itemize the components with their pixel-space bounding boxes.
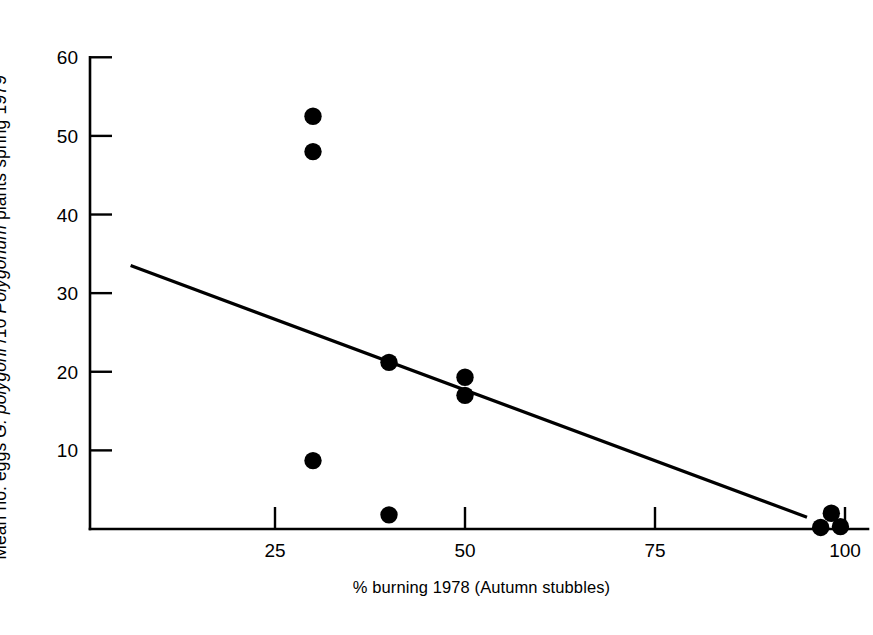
- data-point: [812, 519, 829, 536]
- y-tick-label: 60: [57, 47, 78, 68]
- x-tick-label: 75: [644, 540, 665, 561]
- data-points: [304, 108, 849, 537]
- figure-scatter-plot: Mean no. eggs G. polygoni /10 Polygonum …: [0, 0, 873, 635]
- y-tick-label: 40: [57, 205, 78, 226]
- data-point: [304, 452, 321, 469]
- data-point: [832, 518, 849, 535]
- data-point: [456, 369, 473, 386]
- x-tick-label: 100: [829, 540, 861, 561]
- x-tick-label: 25: [264, 540, 285, 561]
- plot-area: 102030405060255075100: [0, 0, 873, 635]
- data-point: [456, 387, 473, 404]
- data-point: [380, 354, 397, 371]
- data-point: [304, 143, 321, 160]
- data-point: [380, 506, 397, 523]
- y-tick-label: 20: [57, 362, 78, 383]
- x-tick-label: 50: [454, 540, 475, 561]
- y-tick-label: 10: [57, 440, 78, 461]
- data-point: [304, 108, 321, 125]
- y-tick-label: 30: [57, 283, 78, 304]
- y-tick-label: 50: [57, 126, 78, 147]
- tick-labels: 102030405060255075100: [57, 47, 861, 561]
